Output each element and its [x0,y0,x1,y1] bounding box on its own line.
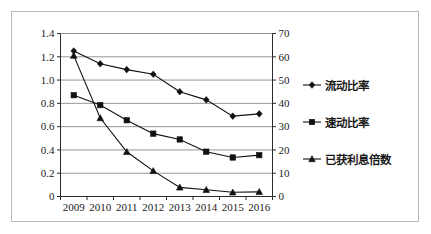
left-tick-label: 0.2 [41,167,55,179]
data-point-square [98,102,103,107]
line-chart: 00.20.40.60.81.01.21.4 010203040506070 2… [0,0,431,234]
legend-item-2[interactable]: 速动比率 [303,116,370,129]
left-tick-label: 0 [49,190,55,202]
data-point-square [177,137,182,142]
right-tick-label: 70 [279,27,291,39]
left-tick-label: 0.8 [41,97,55,109]
right-tick-label: 60 [279,51,291,63]
data-point-triangle [150,168,157,174]
data-point-diamond [177,88,183,95]
x-tick-label: 2009 [63,201,86,213]
legend-item-3[interactable]: 已获利息倍数 [303,153,392,166]
series-line [74,56,260,193]
chart-legend: 流动比率速动比率已获利息倍数 [303,79,392,166]
left-tick-label: 1.4 [41,27,55,39]
data-point-diamond [97,60,103,67]
x-tick-label: 2015 [222,201,245,213]
chart-figure: 00.20.40.60.81.01.21.4 010203040506070 2… [0,0,431,234]
x-tick-label: 2011 [116,201,138,213]
legend-marker-diamond [309,82,315,89]
data-point-square [151,131,156,136]
x-tick-label: 2016 [248,201,271,213]
left-axis-tick-labels: 00.20.40.60.81.01.21.4 [41,27,61,202]
data-point-diamond [203,97,209,104]
data-point-triangle [70,52,77,58]
right-tick-label: 40 [279,97,291,109]
data-point-diamond [230,113,236,120]
data-point-square [71,93,76,98]
legend-marker-square [309,119,314,124]
data-point-square [257,152,262,157]
x-tick-label: 2010 [89,201,112,213]
x-tick-label: 2014 [195,201,218,213]
right-tick-label: 50 [279,74,291,86]
x-tick-label: 2012 [142,201,164,213]
legend-item-1[interactable]: 流动比率 [303,79,370,92]
x-axis-tick-labels: 20092010201120122013201420152016 [61,197,273,213]
legend-label: 流动比率 [325,79,370,92]
legend-label: 已获利息倍数 [325,153,392,166]
data-point-diamond [124,66,130,73]
data-point-diamond [256,111,262,118]
x-tick-label: 2013 [169,201,192,213]
data-point-square [230,155,235,160]
data-point-square [124,118,129,123]
left-tick-label: 1.2 [41,51,55,63]
right-tick-label: 30 [279,120,291,132]
legend-label: 速动比率 [325,116,370,129]
right-axis-tick-labels: 010203040506070 [273,27,291,202]
left-tick-label: 1.0 [41,74,55,86]
left-tick-label: 0.6 [41,120,55,132]
gridlines [61,34,273,174]
right-tick-label: 10 [279,167,291,179]
left-tick-label: 0.4 [41,144,55,156]
data-point-triangle [97,115,104,121]
right-tick-label: 20 [279,144,291,156]
data-point-diamond [150,71,156,78]
data-point-square [204,149,209,154]
right-tick-label: 0 [279,190,285,202]
series-1 [71,48,262,120]
